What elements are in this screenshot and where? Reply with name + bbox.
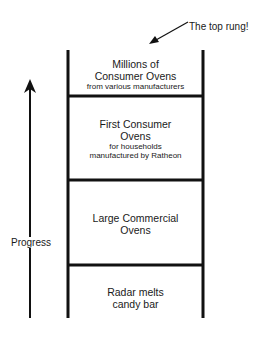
- callout-arrow-icon: [149, 22, 188, 44]
- rung-first-consumer-ovens: First Consumer Ovens for households manu…: [70, 98, 201, 180]
- progress-label: Progress: [8, 237, 54, 248]
- rung-radar-melts-candy-bar: Radar melts candy bar: [70, 280, 201, 316]
- rung-large-commercial-ovens: Large Commercial Ovens: [70, 182, 201, 265]
- rung-title-line: Ovens: [120, 224, 150, 236]
- rung-title-line: Radar melts: [107, 286, 164, 298]
- rung-title-line: candy bar: [112, 298, 158, 310]
- rung-title-line: First Consumer: [100, 118, 172, 130]
- rung-title-line: Ovens: [120, 130, 150, 142]
- rung-subtitle: manufactured by Ratheon: [89, 151, 181, 160]
- arrow-up-icon: [24, 79, 36, 318]
- rung-title-line: Large Commercial: [93, 212, 179, 224]
- rung-subtitle: for households: [109, 142, 161, 151]
- rung-subtitle: from various manufacturers: [87, 82, 184, 91]
- rung-title-line: Consumer Ovens: [95, 70, 177, 82]
- callout-label: The top rung!: [189, 21, 248, 32]
- rung-millions-consumer-ovens: Millions of Consumer Ovens from various …: [70, 52, 201, 96]
- rung-title-line: Millions of: [112, 58, 159, 70]
